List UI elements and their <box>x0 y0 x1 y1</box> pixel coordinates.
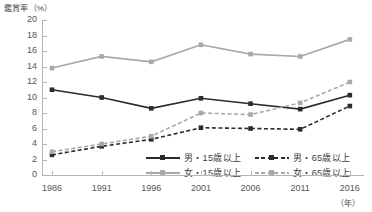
data-point-female15 <box>298 54 303 59</box>
x-axis-tick-label: 2011 <box>291 183 310 193</box>
y-axis-tick-label: 8 <box>19 107 37 117</box>
x-axis-tick-label: 2016 <box>340 183 360 193</box>
legend-item[interactable]: 女・15歳以上 <box>146 166 241 179</box>
chart-container: 鑑賞率（%） （年） 男・15歳以上男・65歳以上女・15歳以上女・65歳以上 … <box>0 0 372 212</box>
x-axis-tick-label: 1986 <box>42 183 62 193</box>
data-point-male15 <box>50 87 55 92</box>
legend-item[interactable]: 女・65歳以上 <box>255 166 350 179</box>
data-point-male15 <box>298 107 303 112</box>
y-axis-tick-label: 4 <box>19 138 37 148</box>
data-point-male65 <box>199 125 204 130</box>
y-axis-tick-label: 14 <box>19 61 37 71</box>
legend-label: 男・15歳以上 <box>184 151 241 164</box>
x-axis-line <box>42 175 364 176</box>
data-point-female15 <box>149 60 154 65</box>
y-axis-tick-mark <box>43 82 47 83</box>
y-axis-tick-mark <box>43 20 47 21</box>
y-axis-tick-label: 6 <box>19 123 37 133</box>
data-point-female65 <box>99 142 104 147</box>
legend-label: 男・65歳以上 <box>293 151 350 164</box>
x-axis-tick-label: 2001 <box>191 183 211 193</box>
y-axis-tick-mark <box>43 67 47 68</box>
y-axis-tick-label: 16 <box>19 45 37 55</box>
y-axis-tick-label: 12 <box>19 76 37 86</box>
x-axis-tick-mark <box>201 171 202 175</box>
y-axis-tick-label-zero: 0 <box>19 169 37 179</box>
y-axis-tick-mark <box>43 160 47 161</box>
x-axis-tick-label: 1991 <box>92 183 112 193</box>
x-axis-tick-mark <box>151 171 152 175</box>
data-point-male15 <box>199 96 204 101</box>
y-axis-tick-label: 20 <box>19 14 37 24</box>
legend-item[interactable]: 男・65歳以上 <box>255 151 350 164</box>
data-point-male15 <box>348 93 353 98</box>
data-point-female65 <box>50 149 55 154</box>
data-point-female65 <box>248 112 253 117</box>
data-point-male15 <box>149 106 154 111</box>
y-axis-tick-label: 2 <box>19 154 37 164</box>
x-axis-tick-label: 2006 <box>241 183 261 193</box>
data-point-female15 <box>99 54 104 59</box>
legend-row: 男・15歳以上男・65歳以上 <box>146 150 350 165</box>
legend-swatch-icon <box>255 168 289 178</box>
y-axis-tick-label: 10 <box>19 92 37 102</box>
x-axis-tick-mark <box>251 171 252 175</box>
data-point-male65 <box>248 126 253 131</box>
x-axis-tick-label: 1996 <box>141 183 161 193</box>
legend-swatch-icon <box>255 153 289 163</box>
legend-label: 女・15歳以上 <box>184 166 241 179</box>
legend-item[interactable]: 男・15歳以上 <box>146 151 241 164</box>
legend-swatch-icon <box>146 153 180 163</box>
y-axis-tick-mark <box>43 129 47 130</box>
data-point-male65 <box>298 127 303 132</box>
data-point-male65 <box>348 104 353 109</box>
x-axis-tick-mark <box>350 171 351 175</box>
data-point-male15 <box>248 101 253 106</box>
y-axis-tick-mark <box>43 113 47 114</box>
x-axis-unit-label: （年） <box>336 197 360 208</box>
x-axis-tick-mark <box>102 171 103 175</box>
data-point-female15 <box>348 37 353 42</box>
data-point-male15 <box>99 95 104 100</box>
series-line-female65 <box>52 82 350 152</box>
y-axis-tick-mark <box>43 98 47 99</box>
data-point-female65 <box>199 111 204 116</box>
x-axis-tick-mark <box>52 171 53 175</box>
series-layer <box>0 0 372 212</box>
legend-row: 女・15歳以上女・65歳以上 <box>146 165 350 180</box>
y-axis-tick-mark <box>43 36 47 37</box>
data-point-female15 <box>50 66 55 71</box>
data-point-female65 <box>298 101 303 106</box>
data-point-female65 <box>149 134 154 139</box>
y-axis-tick-mark <box>43 144 47 145</box>
data-point-female65 <box>348 80 353 85</box>
legend-label: 女・65歳以上 <box>293 166 350 179</box>
x-axis-tick-mark <box>300 171 301 175</box>
y-axis-tick-mark <box>43 51 47 52</box>
data-point-female15 <box>248 52 253 57</box>
y-axis-tick-label: 18 <box>19 30 37 40</box>
data-point-female15 <box>199 43 204 48</box>
